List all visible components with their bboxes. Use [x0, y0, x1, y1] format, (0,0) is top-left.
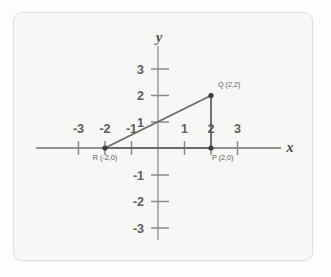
x-tick-label-3: 3	[234, 122, 241, 136]
axes-group	[36, 46, 281, 240]
x-axis-label: x	[286, 140, 294, 155]
y-tick-label--1: -1	[133, 169, 144, 183]
point-q-marker	[208, 93, 213, 98]
x-tick-label-group: -3 -2 -1 1 2 3	[73, 122, 241, 136]
y-tick-label-1: 1	[137, 116, 144, 130]
y-tick-label--2: -2	[133, 195, 144, 209]
x-tick-label--3: -3	[73, 122, 84, 136]
y-tick-label-group: 3 2 1 -1 -2 -3	[133, 63, 144, 236]
y-tick-label-2: 2	[137, 89, 144, 103]
y-tick-label-3: 3	[137, 63, 144, 77]
x-tick-label--1: -1	[126, 122, 137, 136]
point-p-marker	[208, 145, 213, 150]
x-tick-label--2: -2	[99, 122, 110, 136]
x-tick-label-1: 1	[181, 122, 188, 136]
point-label-p: P (2,0)	[212, 153, 233, 162]
point-label-q: Q (2,2)	[218, 80, 240, 89]
y-tick-label--3: -3	[133, 222, 144, 236]
coordinate-plane-figure: -3 -2 -1 1 2 3 3 2 1 -1 -2 -3 x y Q (2,2…	[0, 0, 331, 277]
point-label-r: R (-2,0)	[93, 153, 117, 162]
y-axis-label: y	[154, 30, 163, 45]
x-tick-label-2: 2	[208, 122, 215, 136]
screenshot-root: -3 -2 -1 1 2 3 3 2 1 -1 -2 -3 x y Q (2,2…	[0, 0, 331, 277]
point-r-marker	[102, 145, 107, 150]
